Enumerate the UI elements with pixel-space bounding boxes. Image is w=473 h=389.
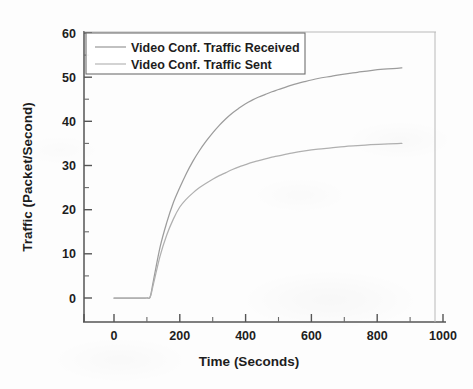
legend: Video Conf. Traffic Received Video Conf.… [86, 33, 305, 74]
y-tick-label-50: 50 [62, 71, 76, 85]
chart-figure: 0 10 20 30 40 50 60 0 200 400 600 [0, 0, 473, 389]
x-axis-title: Time (Seconds) [199, 354, 299, 369]
y-tick-label-10: 10 [62, 247, 76, 261]
legend-label-sent: Video Conf. Traffic Sent [131, 58, 273, 72]
y-tick-label-20: 20 [62, 203, 76, 217]
x-tick-label-600: 600 [301, 329, 322, 343]
x-tick-label-800: 800 [367, 329, 388, 343]
y-tick-label-0: 0 [69, 292, 76, 306]
y-axis-title: Traffic (Packet/Second) [20, 102, 35, 251]
line-chart: 0 10 20 30 40 50 60 0 200 400 600 [0, 0, 473, 389]
y-tick-label-30: 30 [62, 159, 76, 173]
series-line-sent [114, 143, 402, 298]
x-tick-label-200: 200 [169, 329, 190, 343]
series-line-received [114, 68, 402, 298]
y-tick-label-60: 60 [62, 27, 76, 41]
x-tick-label-1000: 1000 [429, 329, 457, 343]
x-tick-label-0: 0 [111, 329, 118, 343]
legend-label-received: Video Conf. Traffic Received [131, 41, 300, 55]
x-tick-label-400: 400 [235, 329, 256, 343]
y-tick-label-40: 40 [62, 115, 76, 129]
